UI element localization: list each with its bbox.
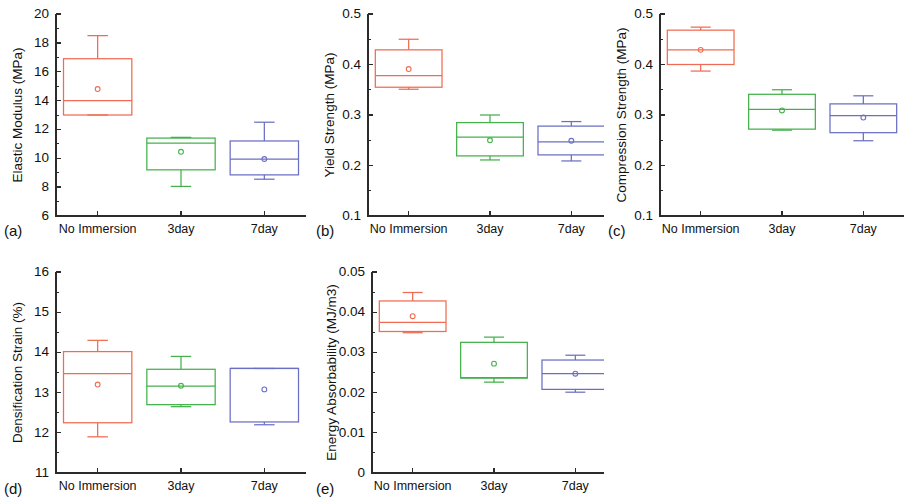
panel-yield-strength: 0.10.20.30.40.5Yield Strength (MPa)No Im… <box>312 0 604 258</box>
box-compression-strength-3 <box>830 96 897 141</box>
panel-tag-b: (b) <box>316 222 334 239</box>
y-axis-title: Energy Absorbability (MJ/m3) <box>324 284 339 460</box>
axis-lines <box>372 272 604 473</box>
y-tick-label: 6 <box>41 208 49 223</box>
y-tick-label: 14 <box>34 93 50 108</box>
panel-compression-strength: 0.10.20.30.40.5Compression Strength (MPa… <box>604 0 908 258</box>
x-tick-label-3: 7day <box>558 222 586 236</box>
y-tick-label: 14 <box>34 344 50 359</box>
plot-compression-strength: 0.10.20.30.40.5Compression Strength (MPa… <box>604 0 908 258</box>
y-tick-label: 0.05 <box>339 264 365 279</box>
y-tick-label: 0.1 <box>634 208 653 223</box>
y-tick-label: 13 <box>34 385 49 400</box>
x-tick-label-2: 3day <box>167 222 195 236</box>
plot-elastic-modulus: 68101214161820Elastic Modulus (MPa)No Im… <box>0 0 312 258</box>
box-elastic-modulus-3 <box>230 122 298 179</box>
x-tick-label-2: 3day <box>768 222 796 236</box>
y-tick-label: 11 <box>35 465 49 480</box>
boxplot-figure: 68101214161820Elastic Modulus (MPa)No Im… <box>0 0 908 501</box>
mean-marker <box>410 314 415 319</box>
box-iqr <box>830 104 897 133</box>
box-iqr <box>538 126 604 155</box>
y-tick-label: 12 <box>34 121 49 136</box>
panel-tag-d: (d) <box>4 480 22 497</box>
x-tick-label-2: 3day <box>480 479 508 493</box>
mean-marker <box>780 108 785 113</box>
y-tick-label: 0.4 <box>342 57 361 72</box>
y-tick-label: 18 <box>34 35 49 50</box>
panel-densification-strain: 111213141516Densification Strain (%)No I… <box>0 258 312 501</box>
x-tick-label-3: 7day <box>251 479 279 493</box>
box-iqr <box>749 94 816 129</box>
y-tick-label: 0.3 <box>342 107 361 122</box>
mean-marker <box>492 361 497 366</box>
box-yield-strength-3 <box>538 122 604 161</box>
box-densification-strain-2 <box>147 356 215 406</box>
y-tick-label: 8 <box>41 179 49 194</box>
box-compression-strength-2 <box>749 90 816 130</box>
x-tick-label-2: 3day <box>167 479 195 493</box>
x-tick-label-1: No Immersion <box>59 222 137 236</box>
x-tick-label-1: No Immersion <box>370 222 448 236</box>
panel-elastic-modulus: 68101214161820Elastic Modulus (MPa)No Im… <box>0 0 312 258</box>
panel-tag-e: (e) <box>316 480 334 497</box>
box-energy-absorbability-3 <box>542 355 604 392</box>
x-tick-label-1: No Immersion <box>59 479 137 493</box>
y-tick-label: 16 <box>34 264 49 279</box>
box-densification-strain-1 <box>64 340 132 436</box>
y-tick-label: 10 <box>34 150 49 165</box>
mean-marker <box>179 149 184 154</box>
mean-marker <box>262 387 267 392</box>
y-tick-label: 0.03 <box>339 344 365 359</box>
x-tick-label-3: 7day <box>251 222 279 236</box>
x-tick-label-3: 7day <box>850 222 878 236</box>
y-axis-title: Compression Strength (MPa) <box>614 28 629 203</box>
mean-marker <box>95 87 100 92</box>
box-energy-absorbability-1 <box>379 293 446 333</box>
box-elastic-modulus-1 <box>64 36 132 115</box>
y-tick-label: 0.3 <box>634 107 653 122</box>
mean-marker <box>406 67 411 72</box>
box-iqr <box>457 123 524 156</box>
y-axis-title: Yield Strength (MPa) <box>322 53 337 178</box>
box-iqr <box>147 369 215 404</box>
box-energy-absorbability-2 <box>461 337 528 382</box>
y-axis-title: Elastic Modulus (MPa) <box>10 47 25 182</box>
box-densification-strain-3 <box>230 368 298 424</box>
x-tick-label-3: 7day <box>562 479 590 493</box>
box-yield-strength-2 <box>457 115 524 160</box>
y-tick-label: 0 <box>357 465 365 480</box>
axis-lines <box>56 272 306 473</box>
y-tick-label: 15 <box>34 304 49 319</box>
box-iqr <box>461 342 528 378</box>
y-tick-label: 0.01 <box>339 425 365 440</box>
box-compression-strength-1 <box>667 27 734 71</box>
x-tick-label-1: No Immersion <box>662 222 740 236</box>
x-tick-label-1: No Immersion <box>374 479 452 493</box>
y-tick-label: 0.02 <box>339 385 365 400</box>
plot-yield-strength: 0.10.20.30.40.5Yield Strength (MPa)No Im… <box>312 0 604 258</box>
panel-energy-absorbability: 00.010.020.030.040.05Energy Absorbabilit… <box>312 258 604 501</box>
y-tick-label: 20 <box>34 6 49 21</box>
plot-energy-absorbability: 00.010.020.030.040.05Energy Absorbabilit… <box>312 258 604 501</box>
x-tick-label-2: 3day <box>476 222 504 236</box>
mean-marker <box>488 138 493 143</box>
mean-marker <box>569 138 574 143</box>
box-iqr <box>230 368 298 421</box>
mean-marker <box>95 382 100 387</box>
y-axis-title: Densification Strain (%) <box>10 302 25 443</box>
y-tick-label: 0.4 <box>634 57 653 72</box>
y-tick-label: 0.5 <box>634 6 653 21</box>
y-tick-label: 12 <box>34 425 49 440</box>
y-tick-label: 0.5 <box>342 6 361 21</box>
y-tick-label: 0.04 <box>339 304 366 319</box>
box-iqr <box>375 50 442 87</box>
y-tick-label: 0.2 <box>342 158 361 173</box>
plot-densification-strain: 111213141516Densification Strain (%)No I… <box>0 258 312 501</box>
panel-tag-c: (c) <box>608 222 626 239</box>
box-elastic-modulus-2 <box>147 137 215 186</box>
box-iqr <box>230 141 298 175</box>
y-tick-label: 0.1 <box>342 208 361 223</box>
y-tick-label: 0.2 <box>634 158 653 173</box>
y-tick-label: 16 <box>34 64 49 79</box>
